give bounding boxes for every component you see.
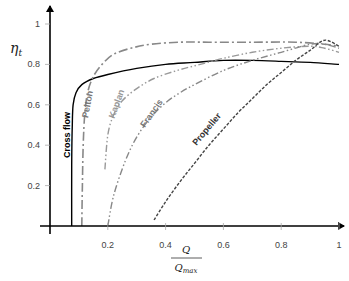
x-ticks: 0.20.40.60.81: [102, 223, 342, 250]
y-tick-label: 0.4: [27, 140, 40, 150]
label-cross-flow: Cross flow: [62, 111, 72, 158]
x-tick-label: 0.2: [102, 240, 115, 250]
x-tick-label: 1: [336, 240, 341, 250]
y-tick-label: 0.2: [27, 181, 40, 191]
curve-cross-flow: [72, 60, 339, 226]
curve-kaplan: [105, 46, 339, 169]
label-pelton: Pelton: [80, 90, 95, 119]
y-tick-label: 1: [35, 19, 40, 29]
efficiency-chart: 0.20.40.60.81 0.20.40.60.81 Cross flowPe…: [0, 0, 349, 281]
y-axis-title: ηt: [10, 40, 22, 58]
x-tick-label: 0.8: [275, 240, 288, 250]
label-propeller: Propeller: [190, 111, 223, 148]
curve-francis: [108, 43, 339, 226]
curve-pelton: [82, 42, 339, 226]
y-ticks: 0.20.40.60.81: [27, 19, 50, 191]
y-tick-label: 0.8: [27, 59, 40, 69]
x-axis-title-numerator: Q: [182, 244, 190, 255]
label-kaplan: Kaplan: [107, 88, 127, 120]
curve-labels: Cross flowPeltonKaplanFrancisPropeller: [62, 88, 223, 158]
x-tick-label: 0.4: [159, 240, 172, 250]
x-axis-title-denominator: Qmax: [175, 262, 198, 275]
curve-propeller: [154, 40, 339, 220]
label-francis: Francis: [138, 97, 165, 129]
x-tick-label: 0.6: [217, 240, 230, 250]
y-tick-label: 0.6: [27, 100, 40, 110]
